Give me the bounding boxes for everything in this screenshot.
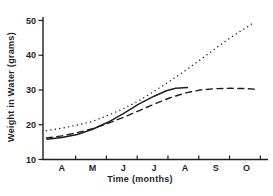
chart-figure: 1020304050AMJJASO Weight in Water (grams… [0, 0, 273, 196]
y-tick-label: 10 [26, 155, 36, 165]
y-tick-label: 30 [26, 85, 36, 95]
x-tick-label: J [121, 163, 126, 173]
axes-frame [43, 17, 268, 160]
solid-series-line [46, 88, 188, 140]
dotted-series-line [46, 22, 254, 131]
x-axis-title: Time (months) [40, 174, 240, 184]
dashed-series-line [46, 88, 257, 138]
line-chart: 1020304050AMJJASO [0, 0, 273, 196]
x-tick-label: O [243, 163, 250, 173]
y-tick-label: 20 [26, 120, 36, 130]
y-tick-label: 40 [26, 50, 36, 60]
x-tick-label: A [59, 163, 66, 173]
x-tick-label: J [152, 163, 157, 173]
x-tick-label: S [213, 163, 219, 173]
y-axis-title: Weight in Water (grams) [6, 17, 16, 157]
x-tick-label: M [89, 163, 97, 173]
x-tick-label: A [182, 163, 189, 173]
y-tick-label: 50 [26, 16, 36, 26]
